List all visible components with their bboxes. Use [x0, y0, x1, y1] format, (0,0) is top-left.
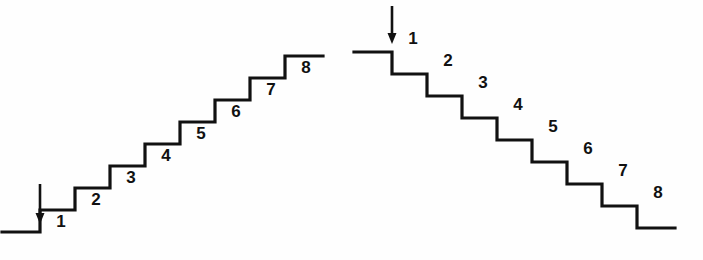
ascending-staircase-step-label-1: 1	[56, 212, 65, 231]
descending-staircase-path	[354, 52, 675, 228]
descending-staircase-step-label-3: 3	[478, 73, 487, 92]
ascending-staircase-step-label-6: 6	[231, 102, 240, 121]
descending-staircase-step-label-5: 5	[548, 117, 557, 136]
left-ascending-staircase: 12345678	[2, 56, 323, 232]
descending-staircase-step-label-8: 8	[653, 183, 662, 202]
descending-staircase-step-label-6: 6	[583, 139, 592, 158]
right-descending-staircase: 12345678	[354, 6, 675, 228]
ascending-staircase-step-label-5: 5	[196, 124, 205, 143]
descending-staircase-step-label-7: 7	[618, 161, 627, 180]
ascending-staircase-step-label-8: 8	[301, 58, 310, 77]
staircase-svg-canvas: 1234567812345678	[0, 0, 703, 260]
ascending-staircase-step-label-4: 4	[161, 146, 171, 165]
descending-staircase-step-label-4: 4	[513, 95, 523, 114]
ascending-staircase-step-label-2: 2	[91, 190, 100, 209]
descending-staircase-step-label-2: 2	[443, 51, 452, 70]
down-arrow-left-head	[36, 213, 45, 224]
staircase-diagram: 1234567812345678	[0, 0, 703, 260]
descending-staircase-step-label-1: 1	[408, 29, 417, 48]
ascending-staircase-step-label-7: 7	[266, 80, 275, 99]
down-arrow-right-head	[388, 33, 397, 44]
ascending-staircase-step-label-3: 3	[126, 168, 135, 187]
